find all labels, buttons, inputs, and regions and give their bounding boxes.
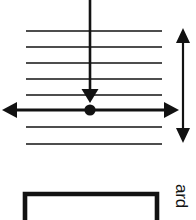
horizontal-axis-right-arrow-head — [164, 102, 179, 118]
incident-down-arrow — [82, 0, 99, 103]
vertical-extent-bottom-arrow-head — [176, 128, 190, 143]
vertical-extent-double-arrow — [176, 28, 190, 143]
origin-node — [84, 104, 95, 115]
field-lines-group — [26, 31, 162, 144]
rotated-caption: ard — [154, 184, 190, 218]
horizontal-axis-left-arrow-head — [2, 102, 17, 118]
incident-down-arrow-head — [82, 89, 99, 103]
figure-canvas: ard — [0, 0, 196, 220]
vertical-extent-top-arrow-head — [176, 28, 190, 43]
lower-rectangle — [25, 194, 157, 220]
